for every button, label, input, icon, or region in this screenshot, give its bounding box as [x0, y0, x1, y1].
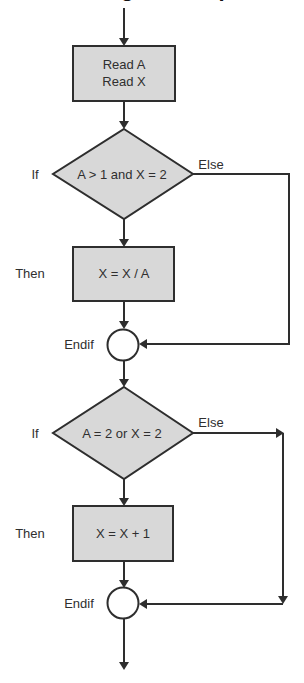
process-read-inputs: Read A Read X [73, 46, 175, 101]
connector-2 [119, 219, 129, 247]
decision-2-else-label: Else [198, 415, 223, 430]
process-divide-text: X = X / A [99, 266, 150, 281]
process-increment: X = X + 1 Then [15, 506, 173, 561]
flowchart: Nesting If Example Read A Read X A > 1 a… [0, 0, 304, 683]
arrow-down-icon [278, 596, 288, 604]
endif-label-2: Endif [64, 596, 94, 611]
arrow-down-icon [119, 121, 129, 129]
connector-4 [119, 361, 129, 387]
title-text: Nesting If Example [54, 0, 251, 1]
connector-6 [119, 561, 129, 588]
process-read-x: Read X [102, 74, 146, 89]
connector-5 [119, 479, 129, 506]
arrow-down-icon [119, 379, 129, 387]
decision-2-if-label: If [31, 426, 39, 441]
arrow-down-icon [119, 662, 129, 670]
decision-1-condition: A > 1 and X = 2 [77, 167, 167, 182]
decision-2-condition: A = 2 or X = 2 [82, 426, 162, 441]
endif-junction-1: Endif [64, 330, 138, 361]
endif-label-1: Endif [64, 337, 94, 352]
arrow-down-icon [119, 38, 129, 46]
then-label-1: Then [15, 266, 45, 281]
arrow-left-icon [139, 339, 147, 349]
clipped-title: Nesting If Example [54, 0, 251, 1]
process-increment-text: X = X + 1 [96, 526, 150, 541]
arrow-left-icon [139, 599, 147, 609]
connector-1 [119, 101, 129, 129]
process-divide: X = X / A Then [15, 247, 174, 301]
arrow-down-icon [119, 498, 129, 506]
exit-arrow [119, 619, 129, 670]
connector-3 [119, 301, 129, 329]
entry-arrow [119, 8, 129, 46]
decision-1-if-label: If [31, 167, 39, 182]
then-label-2: Then [15, 526, 45, 541]
decision-1-else-label: Else [198, 157, 223, 172]
process-read-a: Read A [103, 57, 146, 72]
arrow-down-icon [119, 239, 129, 247]
endif-junction-2: Endif [64, 588, 138, 619]
arrow-down-icon [119, 321, 129, 329]
